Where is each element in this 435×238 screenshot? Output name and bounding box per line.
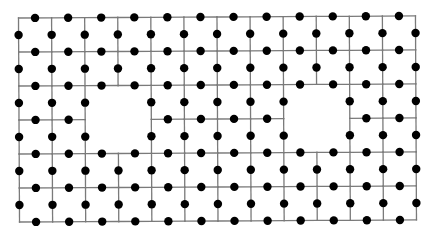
- edge-dot: [396, 216, 404, 224]
- edge-dot: [329, 46, 337, 54]
- edge-dot: [346, 165, 354, 173]
- edge-dot: [378, 63, 386, 71]
- edge-dot: [213, 98, 221, 106]
- edge-dot: [263, 115, 271, 123]
- edge-dot: [313, 165, 321, 173]
- edge-dot: [180, 98, 188, 106]
- edge-dot: [197, 115, 205, 123]
- edge-dot: [130, 47, 138, 55]
- edge-dot: [81, 64, 89, 72]
- edge-dot: [15, 133, 23, 141]
- edge-dot: [97, 81, 105, 89]
- edge-dot: [32, 150, 40, 158]
- edge-dot: [81, 166, 89, 174]
- edge-dot: [345, 29, 353, 37]
- edge-dot: [280, 199, 288, 207]
- edge-dot: [263, 217, 271, 225]
- edge-dot: [147, 30, 155, 38]
- edge-dot: [48, 99, 56, 107]
- edge-dot: [180, 132, 188, 140]
- edge-dot: [31, 14, 39, 22]
- edge-dot: [230, 115, 238, 123]
- lattice-edges: [19, 16, 417, 222]
- edge-dot: [64, 116, 72, 124]
- edge-dot: [81, 132, 89, 140]
- edge-dot: [263, 81, 271, 89]
- edge-dot: [378, 29, 386, 37]
- edge-dot: [379, 97, 387, 105]
- edge-dot: [15, 99, 23, 107]
- edge-dot: [98, 217, 106, 225]
- edge-dot: [379, 131, 387, 139]
- edge-dot: [213, 30, 221, 38]
- edge-dot: [246, 98, 254, 106]
- edge-dot: [130, 13, 138, 21]
- edge-dot: [164, 115, 172, 123]
- edge-dot: [197, 81, 205, 89]
- edge-dot: [213, 132, 221, 140]
- edge-dot: [230, 81, 238, 89]
- edge-dot: [330, 216, 338, 224]
- edge-dot: [163, 13, 171, 21]
- edge-dot: [147, 64, 155, 72]
- edge-dot: [362, 148, 370, 156]
- edge-dot: [362, 12, 370, 20]
- edge-dot: [262, 13, 270, 21]
- edge-dot: [263, 149, 271, 157]
- edge-dot: [312, 29, 320, 37]
- edge-dot: [395, 114, 403, 122]
- edge-dot: [214, 200, 222, 208]
- edge-dot: [412, 199, 420, 207]
- edge-dot: [164, 217, 172, 225]
- edge-dot: [362, 80, 370, 88]
- edge-dot: [362, 182, 370, 190]
- edge-dot: [329, 182, 337, 190]
- edge-dot: [98, 149, 106, 157]
- edge-dot: [345, 63, 353, 71]
- edge-dot: [97, 13, 105, 21]
- edge-dot: [279, 97, 287, 105]
- edge-dot: [395, 12, 403, 20]
- edge-dot: [31, 82, 39, 90]
- edge-dot: [263, 183, 271, 191]
- edge-dot: [114, 64, 122, 72]
- edge-dot: [363, 216, 371, 224]
- edge-dot: [14, 31, 22, 39]
- edge-dot: [65, 218, 73, 226]
- edge-dot: [97, 47, 105, 55]
- edge-dot: [230, 149, 238, 157]
- edge-dot: [213, 64, 221, 72]
- edge-dot: [147, 132, 155, 140]
- edge-dot: [246, 30, 254, 38]
- edge-dot: [15, 201, 23, 209]
- edge-dot: [379, 165, 387, 173]
- edge-dot: [64, 48, 72, 56]
- edge-dot: [131, 183, 139, 191]
- edge-dot: [214, 166, 222, 174]
- edge-dot: [98, 183, 106, 191]
- edge-dot: [279, 29, 287, 37]
- edge-dot: [32, 218, 40, 226]
- edge-dot: [147, 166, 155, 174]
- edge-dot: [114, 166, 122, 174]
- edge-dot: [296, 46, 304, 54]
- edge-dot: [412, 63, 420, 71]
- edge-dot: [148, 200, 156, 208]
- edge-dot: [263, 47, 271, 55]
- edge-dot: [147, 98, 155, 106]
- edge-dot: [230, 217, 238, 225]
- edge-dot: [81, 200, 89, 208]
- edge-dot: [31, 116, 39, 124]
- edge-dot: [164, 183, 172, 191]
- edge-dot: [411, 29, 419, 37]
- edge-dot: [312, 63, 320, 71]
- lattice-svg: [0, 0, 435, 238]
- edge-dot: [131, 217, 139, 225]
- edge-dot: [346, 97, 354, 105]
- edge-dot: [197, 217, 205, 225]
- edge-dot: [48, 201, 56, 209]
- edge-dot: [114, 30, 122, 38]
- edge-dot: [130, 81, 138, 89]
- edge-dot: [296, 182, 304, 190]
- edge-dot: [48, 167, 56, 175]
